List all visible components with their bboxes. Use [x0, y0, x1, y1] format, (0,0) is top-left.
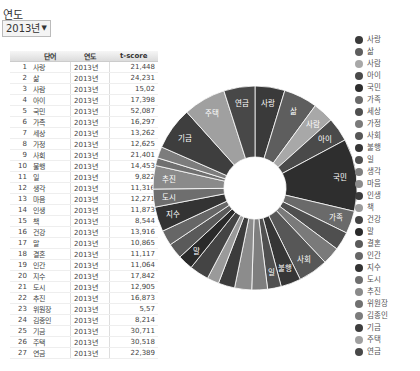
slice-label: 지수 — [166, 210, 180, 219]
legend-label: 도시 — [367, 274, 381, 286]
legend-item[interactable]: 사회 — [355, 130, 388, 142]
slice-label: 사회 — [297, 255, 311, 264]
legend-item[interactable]: 가정 — [355, 118, 388, 130]
legend-swatch-icon — [355, 324, 363, 332]
legend-label: 결혼 — [367, 238, 381, 250]
legend-swatch-icon — [355, 36, 363, 44]
legend-swatch-icon — [355, 288, 363, 296]
slice-label: 주택 — [205, 108, 219, 118]
legend-item[interactable]: 사람 — [355, 58, 388, 70]
legend-item[interactable]: 불행 — [355, 142, 388, 154]
legend-label: 사랑 — [367, 34, 381, 46]
legend-item[interactable]: 책 — [355, 202, 388, 214]
legend-item[interactable]: 기금 — [355, 322, 388, 334]
legend-swatch-icon — [355, 180, 363, 188]
legend-label: 국민 — [367, 82, 381, 94]
legend-item[interactable]: 주택 — [355, 334, 388, 346]
slice-label: 아이 — [318, 134, 332, 144]
legend-swatch-icon — [355, 192, 363, 200]
legend-swatch-icon — [355, 252, 363, 260]
legend-item[interactable]: 인생 — [355, 190, 388, 202]
legend-swatch-icon — [355, 312, 363, 320]
legend-swatch-icon — [355, 120, 363, 128]
legend-item[interactable]: 인간 — [355, 250, 388, 262]
slice-label: 기금 — [178, 134, 192, 143]
slice-label: 일 — [268, 268, 275, 277]
slice-label: 추진 — [162, 174, 176, 184]
legend-label: 말 — [367, 226, 374, 238]
legend-item[interactable]: 도시 — [355, 274, 388, 286]
legend-swatch-icon — [355, 72, 363, 80]
legend-label: 인생 — [367, 190, 381, 202]
legend-item[interactable]: 결혼 — [355, 238, 388, 250]
legend-swatch-icon — [355, 300, 363, 308]
legend-label: 아이 — [367, 70, 381, 82]
legend-label: 마음 — [367, 178, 381, 190]
legend-item[interactable]: 일 — [355, 154, 388, 166]
legend-item[interactable]: 연금 — [355, 346, 388, 358]
slice-label: 사람 — [306, 120, 320, 129]
legend-item[interactable]: 지수 — [355, 262, 388, 274]
legend-item[interactable]: 마음 — [355, 178, 388, 190]
legend-item[interactable]: 위원장 — [355, 298, 388, 310]
legend-label: 가족 — [367, 94, 381, 106]
slice-label: 말 — [193, 247, 200, 256]
legend-swatch-icon — [355, 204, 363, 212]
legend-label: 지수 — [367, 262, 381, 274]
slice-label: 국민 — [333, 172, 347, 182]
legend-swatch-icon — [355, 168, 363, 176]
chart-legend: 사랑삶사람아이국민가족세상가정사회불행일생각마음인생책건강말결혼인간지수도시추진… — [355, 34, 388, 358]
legend-swatch-icon — [355, 336, 363, 344]
legend-swatch-icon — [355, 96, 363, 104]
legend-swatch-icon — [355, 48, 363, 56]
legend-label: 불행 — [367, 142, 381, 154]
legend-item[interactable]: 추진 — [355, 286, 388, 298]
slice-label: 불행 — [278, 263, 292, 273]
slice-label: 연금 — [235, 99, 249, 108]
legend-label: 연금 — [367, 346, 381, 358]
legend-swatch-icon — [355, 276, 363, 284]
legend-swatch-icon — [355, 348, 363, 356]
slice-label: 사랑 — [261, 99, 275, 108]
slice-label: 삶 — [290, 107, 297, 116]
legend-label: 김종인 — [367, 310, 388, 322]
legend-label: 삶 — [367, 46, 374, 58]
legend-swatch-icon — [355, 240, 363, 248]
legend-label: 추진 — [367, 286, 381, 298]
legend-label: 주택 — [367, 334, 381, 346]
legend-label: 일 — [367, 154, 374, 166]
legend-swatch-icon — [355, 84, 363, 92]
legend-swatch-icon — [355, 156, 363, 164]
legend-label: 기금 — [367, 322, 381, 334]
legend-swatch-icon — [355, 108, 363, 116]
slice-label: 도시 — [162, 193, 176, 202]
legend-label: 인간 — [367, 250, 381, 262]
legend-swatch-icon — [355, 132, 363, 140]
slice-label: 가족 — [329, 213, 343, 222]
legend-label: 생각 — [367, 166, 381, 178]
legend-label: 위원장 — [367, 298, 388, 310]
legend-item[interactable]: 사랑 — [355, 34, 388, 46]
legend-item[interactable]: 가족 — [355, 94, 388, 106]
legend-item[interactable]: 세상 — [355, 106, 388, 118]
legend-swatch-icon — [355, 228, 363, 236]
legend-label: 사람 — [367, 58, 381, 70]
legend-item[interactable]: 아이 — [355, 70, 388, 82]
legend-label: 세상 — [367, 106, 381, 118]
legend-label: 사회 — [367, 130, 381, 142]
legend-item[interactable]: 건강 — [355, 214, 388, 226]
legend-label: 책 — [367, 202, 374, 214]
legend-swatch-icon — [355, 144, 363, 152]
legend-swatch-icon — [355, 216, 363, 224]
legend-swatch-icon — [355, 264, 363, 272]
legend-item[interactable]: 말 — [355, 226, 388, 238]
legend-item[interactable]: 생각 — [355, 166, 388, 178]
legend-swatch-icon — [355, 60, 363, 68]
legend-item[interactable]: 김종인 — [355, 310, 388, 322]
legend-item[interactable]: 국민 — [355, 82, 388, 94]
legend-item[interactable]: 삶 — [355, 46, 388, 58]
legend-label: 가정 — [367, 118, 381, 130]
legend-label: 건강 — [367, 214, 381, 226]
